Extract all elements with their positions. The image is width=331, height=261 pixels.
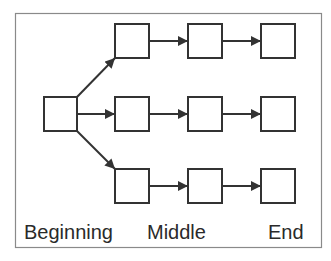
label-middle: Middle xyxy=(147,221,206,243)
node-mid-1 xyxy=(115,97,149,131)
node-top-2 xyxy=(188,24,222,58)
node-bot-1 xyxy=(115,169,149,203)
node-mid-2 xyxy=(188,97,222,131)
node-start xyxy=(44,97,77,131)
branching-flow-diagram: Beginning Middle End xyxy=(0,0,331,261)
node-bot-2 xyxy=(188,169,222,203)
node-bot-3 xyxy=(261,169,295,203)
node-top-1 xyxy=(115,24,149,58)
node-mid-3 xyxy=(261,97,295,131)
label-end: End xyxy=(268,221,304,243)
label-beginning: Beginning xyxy=(24,221,113,243)
node-top-3 xyxy=(261,24,295,58)
